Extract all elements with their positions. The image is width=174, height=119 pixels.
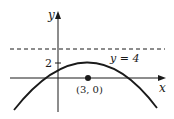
point-3-0 [85, 75, 91, 81]
x-axis-label: x [159, 81, 166, 95]
point-label: (3, 0) [76, 84, 103, 95]
y-axis-label: y [47, 8, 55, 22]
y-axis-arrow-icon [55, 11, 61, 19]
y-axis [55, 11, 61, 112]
graph-canvas: y x 2 y = 4 (3, 0) [0, 0, 174, 119]
asymptote-label: y = 4 [109, 52, 139, 65]
y-tick-label: 2 [45, 57, 52, 70]
